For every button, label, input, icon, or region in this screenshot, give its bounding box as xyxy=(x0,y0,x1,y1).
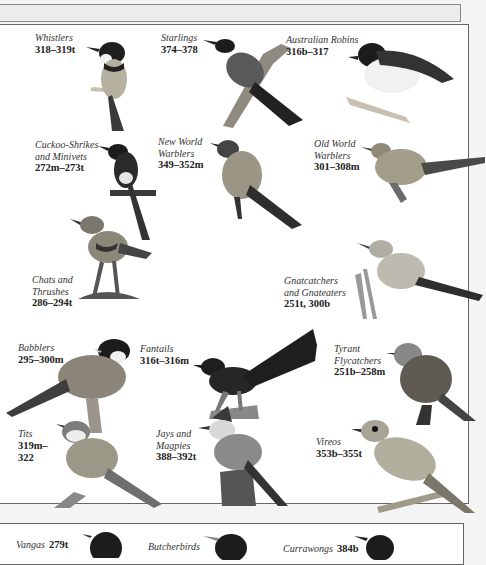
group-name-line-1: Cuckoo-Shrikes xyxy=(35,139,98,151)
chat-thrush-illustration xyxy=(70,213,154,303)
group-pages: 301–308m xyxy=(314,161,360,173)
group-pages-line-2: 322 xyxy=(18,452,48,464)
group-name-line-1: Old World xyxy=(314,138,360,150)
lower-bird-families-panel: Vangas 279t Butcherbirds Currawongs 384b xyxy=(0,523,464,565)
group-name-line-1: Chats and xyxy=(32,274,73,286)
group-pages: 251t, 300b xyxy=(284,298,346,310)
group-name-line-2: Thrushes xyxy=(32,286,73,298)
group-pages: 286–294t xyxy=(32,297,73,309)
currawong-illustration xyxy=(354,530,399,560)
group-name-line-2: and Gnateaters xyxy=(284,287,346,299)
group-name-line-1: Gnatcatchers xyxy=(284,275,346,287)
group-pages: 349–352m xyxy=(158,159,204,171)
vanga-illustration xyxy=(82,528,122,558)
header-strip xyxy=(0,4,461,22)
group-name: Fantails xyxy=(140,343,189,355)
group-name-line-2: Magpies xyxy=(156,440,196,452)
group-pages: 279t xyxy=(49,539,68,550)
group-tits: Tits 319m– 322 xyxy=(18,428,48,464)
group-name: Starlings xyxy=(161,32,198,44)
group-starlings: Starlings 374–378 xyxy=(161,32,198,56)
group-pages: 374–378 xyxy=(161,44,198,56)
group-cuckoo-shrikes: Cuckoo-Shrikes and Minivets 272m–273t xyxy=(35,139,98,174)
australian-robin-illustration xyxy=(346,37,456,132)
group-fantails: Fantails 316t–316m xyxy=(140,343,189,367)
group-name-line-1: New World xyxy=(158,136,204,148)
group-currawongs: Currawongs 384b xyxy=(283,538,359,556)
group-jays-magpies: Jays and Magpies 388–392t xyxy=(156,428,196,463)
group-name-line-2: and Minivets xyxy=(35,151,98,163)
group-chats-thrushes: Chats and Thrushes 286–294t xyxy=(32,274,73,309)
group-name: Butcherbirds xyxy=(148,541,200,552)
old-world-warbler-illustration xyxy=(361,137,486,207)
group-pages-line-1: 319m– xyxy=(18,440,48,452)
group-pages: 318–319t xyxy=(35,44,75,56)
group-name-line-1: Tyrant xyxy=(334,343,385,355)
group-old-world-warblers: Old World Warblers 301–308m xyxy=(314,138,360,173)
group-name: Currawongs xyxy=(283,543,333,554)
group-pages: 388–392t xyxy=(156,451,196,463)
tit-illustration xyxy=(46,418,164,510)
group-pages: 316t–316m xyxy=(140,355,189,367)
group-new-world-warblers: New World Warblers 349–352m xyxy=(158,136,204,171)
group-whistlers: Whistlers 318–319t xyxy=(35,32,75,56)
whistler-illustration xyxy=(82,31,142,131)
group-name-line-2: Flycatchers xyxy=(334,355,385,367)
bird-families-panel: Whistlers 318–319t Starlings 374–378 Aus… xyxy=(0,24,469,504)
gnatcatcher-illustration xyxy=(355,239,485,319)
group-name-line-2: Warblers xyxy=(158,148,204,160)
vireo-illustration xyxy=(351,413,476,513)
group-name: Tits xyxy=(18,428,48,440)
group-gnatcatchers: Gnatcatchers and Gnateaters 251t, 300b xyxy=(284,275,346,310)
group-vangas: Vangas 279t xyxy=(16,534,68,552)
group-name: Whistlers xyxy=(35,32,75,44)
group-butcherbirds: Butcherbirds xyxy=(148,536,200,554)
group-pages: 251b–258m xyxy=(334,366,385,378)
group-name-line-1: Jays and xyxy=(156,428,196,440)
group-name-line-2: Warblers xyxy=(314,150,360,162)
new-world-warbler-illustration xyxy=(210,135,305,230)
group-name: Vangas xyxy=(16,539,45,550)
group-pages: 272m–273t xyxy=(35,162,98,174)
butcherbird-illustration xyxy=(203,530,248,560)
jay-illustration xyxy=(198,406,293,506)
group-tyrant-flycatchers: Tyrant Flycatchers 251b–258m xyxy=(334,343,385,378)
